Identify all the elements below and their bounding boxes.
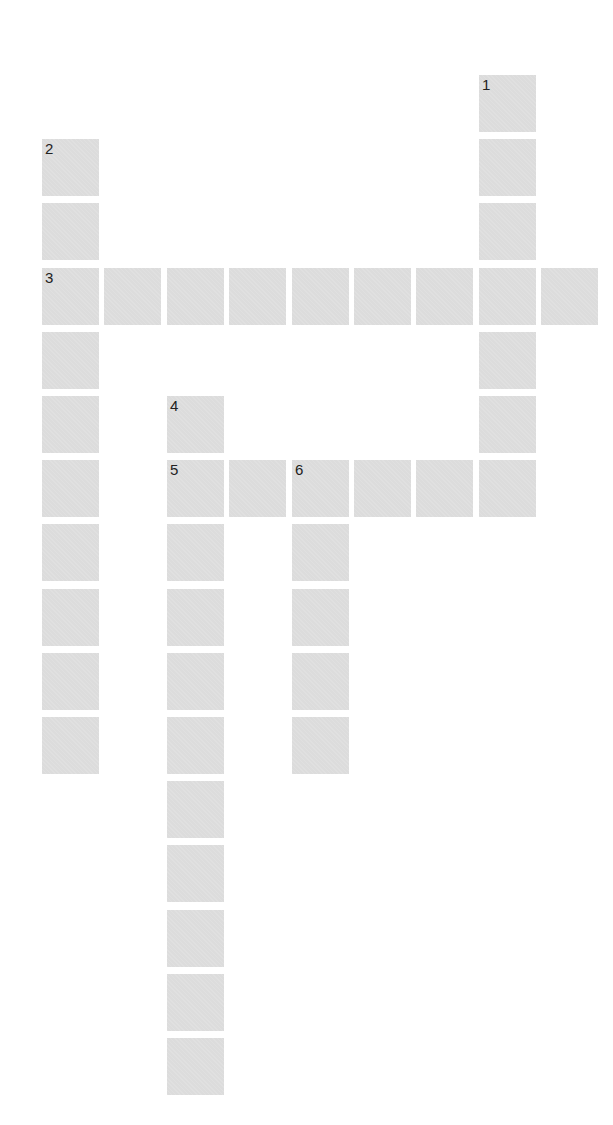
crossword-cell[interactable] <box>292 524 349 581</box>
crossword-cell[interactable]: 2 <box>42 139 99 196</box>
crossword-cell[interactable] <box>42 524 99 581</box>
crossword-cell[interactable] <box>167 1038 224 1095</box>
clue-number: 6 <box>295 462 303 477</box>
crossword-cell[interactable] <box>42 332 99 389</box>
clue-number: 2 <box>45 141 53 156</box>
crossword-grid: 123456 <box>0 0 613 1125</box>
crossword-cell[interactable] <box>42 589 99 646</box>
crossword-cell[interactable] <box>42 653 99 710</box>
clue-number: 4 <box>170 398 178 413</box>
crossword-cell[interactable]: 4 <box>167 396 224 453</box>
crossword-cell[interactable] <box>42 396 99 453</box>
crossword-cell[interactable]: 1 <box>479 75 536 132</box>
crossword-cell[interactable] <box>354 460 411 517</box>
crossword-cell[interactable] <box>354 268 411 325</box>
crossword-cell[interactable] <box>292 653 349 710</box>
crossword-cell[interactable] <box>167 589 224 646</box>
clue-number: 1 <box>482 77 490 92</box>
clue-number: 3 <box>45 270 53 285</box>
crossword-cell[interactable] <box>416 268 473 325</box>
crossword-cell[interactable] <box>229 460 286 517</box>
crossword-cell[interactable] <box>479 139 536 196</box>
crossword-cell[interactable] <box>167 524 224 581</box>
crossword-cell[interactable] <box>479 268 536 325</box>
crossword-cell[interactable] <box>167 910 224 967</box>
crossword-cell[interactable] <box>167 653 224 710</box>
crossword-cell[interactable] <box>167 974 224 1031</box>
clue-number: 5 <box>170 462 178 477</box>
crossword-cell[interactable] <box>479 460 536 517</box>
crossword-cell[interactable] <box>479 203 536 260</box>
crossword-cell[interactable] <box>42 203 99 260</box>
crossword-cell[interactable] <box>292 717 349 774</box>
crossword-cell[interactable] <box>167 268 224 325</box>
crossword-cell[interactable] <box>479 396 536 453</box>
crossword-cell[interactable] <box>42 460 99 517</box>
crossword-cell[interactable] <box>104 268 161 325</box>
crossword-cell[interactable] <box>416 460 473 517</box>
crossword-cell[interactable] <box>292 268 349 325</box>
crossword-cell[interactable] <box>42 717 99 774</box>
crossword-cell[interactable] <box>229 268 286 325</box>
crossword-cell[interactable] <box>292 589 349 646</box>
crossword-cell[interactable] <box>167 717 224 774</box>
crossword-cell[interactable] <box>479 332 536 389</box>
crossword-cell[interactable] <box>167 781 224 838</box>
crossword-cell[interactable]: 5 <box>167 460 224 517</box>
crossword-cell[interactable] <box>167 845 224 902</box>
crossword-cell[interactable]: 6 <box>292 460 349 517</box>
crossword-cell[interactable]: 3 <box>42 268 99 325</box>
crossword-cell[interactable] <box>541 268 598 325</box>
